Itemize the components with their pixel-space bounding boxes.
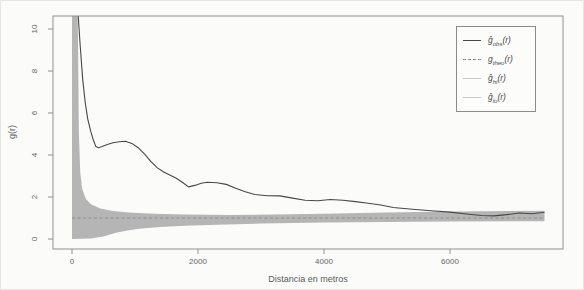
y-tick-label: 2 (30, 194, 39, 199)
legend-sample-line (463, 40, 481, 41)
legend-sample-line (463, 97, 481, 98)
x-axis-title: Distancia en metros (268, 274, 348, 284)
legend-label: gtheo(r) (488, 54, 513, 66)
legend-sample-line (463, 59, 481, 60)
legend-sample-line (463, 78, 481, 79)
x-tick-label: 2000 (189, 257, 207, 266)
legend-item-g_hi: ĝhi(r) (463, 70, 529, 88)
legend-label: ĝobs(r) (488, 35, 511, 47)
legend-item-g_lo: ĝlo(r) (463, 89, 529, 107)
legend-label: ĝhi(r) (488, 73, 506, 85)
x-tick-label: 4000 (315, 257, 333, 266)
legend-label: ĝlo(r) (488, 92, 506, 104)
legend-box: ĝobs(r)gtheo(r)ĝhi(r)ĝlo(r) (456, 26, 536, 112)
y-tick-label: 6 (30, 110, 39, 115)
figure-canvas: 0246810 0200040006000 g(r) Distancia en … (0, 0, 584, 290)
y-tick-label: 8 (30, 68, 39, 73)
y-tick-label: 4 (30, 152, 39, 157)
legend-item-g_obs: ĝobs(r) (463, 32, 529, 50)
y-axis-ticks: 0246810 (30, 24, 53, 241)
x-axis-ticks: 0200040006000 (70, 249, 460, 266)
y-tick-label: 10 (30, 24, 39, 33)
x-tick-label: 6000 (441, 257, 459, 266)
x-tick-label: 0 (70, 257, 75, 266)
y-tick-label: 0 (30, 236, 39, 241)
legend-item-g_theo: gtheo(r) (463, 51, 529, 69)
y-axis-title: g(r) (7, 125, 17, 139)
